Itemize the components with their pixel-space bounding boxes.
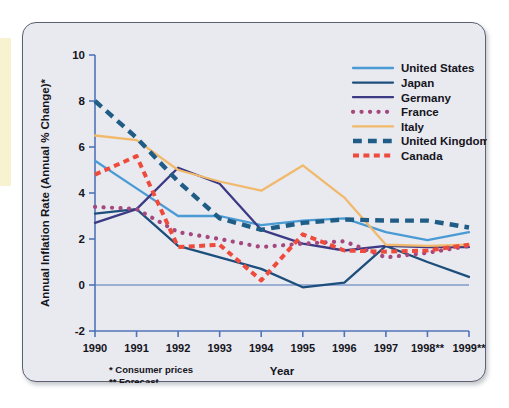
chart-card: 1086420-21990199119921993199419951996199…	[22, 22, 486, 382]
y-tick-label: 4	[79, 187, 86, 199]
series-line-united-states	[95, 161, 469, 240]
x-tick-label: 1998**	[411, 342, 445, 354]
y-axis-title: Annual Inflation Rate (Annual % Change)*	[39, 78, 51, 307]
legend-label-canada: Canada	[401, 150, 443, 162]
left-yellow-strip	[0, 38, 11, 186]
y-tick-label: 0	[79, 279, 85, 291]
x-tick-label: 1990	[83, 342, 107, 354]
legend-label-united-states: United States	[401, 62, 475, 74]
x-tick-label: 1991	[124, 342, 148, 354]
y-tick-label: 10	[72, 49, 85, 61]
x-tick-label: 1997	[374, 342, 398, 354]
legend-label-france: France	[401, 106, 439, 118]
x-tick-label: 1992	[166, 342, 190, 354]
legend-label-germany: Germany	[401, 92, 451, 104]
x-tick-label: 1999**	[452, 342, 486, 354]
legend-label-japan: Japan	[401, 77, 434, 89]
x-tick-label: 1993	[207, 342, 231, 354]
x-tick-label: 1995	[291, 342, 315, 354]
y-tick-label: 6	[79, 141, 85, 153]
footnote-consumer-prices: * Consumer prices	[109, 364, 193, 375]
inflation-line-chart: 1086420-21990199119921993199419951996199…	[23, 23, 487, 383]
y-tick-label: -2	[75, 325, 85, 337]
y-tick-label: 8	[79, 95, 86, 107]
x-tick-label: 1996	[332, 342, 356, 354]
legend-label-united-kingdom: United Kingdom	[401, 135, 487, 147]
x-tick-label: 1994	[249, 342, 274, 354]
legend-group: United StatesJapanGermanyFranceItalyUnit…	[353, 62, 487, 162]
footnote-forecast: ** Forecast	[109, 376, 159, 383]
legend-label-italy: Italy	[401, 121, 425, 133]
x-axis-title: Year	[270, 365, 295, 377]
y-tick-label: 2	[79, 233, 85, 245]
chart-plot-area: 1086420-21990199119921993199419951996199…	[23, 23, 487, 383]
